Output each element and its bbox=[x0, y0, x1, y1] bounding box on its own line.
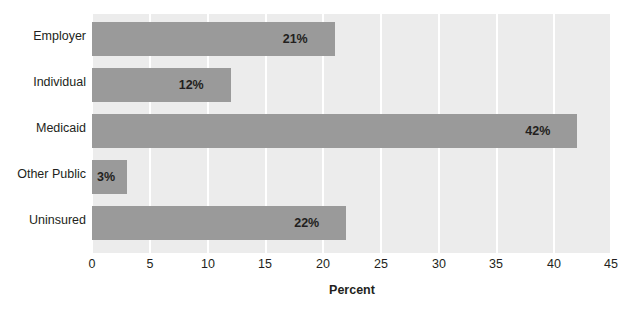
chart-title bbox=[0, 0, 629, 7]
x-axis-tick-labels: 0 5 10 15 20 25 30 35 40 45 bbox=[0, 256, 629, 276]
x-tick-20: 20 bbox=[303, 256, 343, 272]
bar-value-uninsured: 22% bbox=[294, 206, 319, 240]
horizontal-bar-chart: Employer Individual Medicaid Other Publi… bbox=[0, 0, 629, 311]
bar-value-medicaid: 42% bbox=[525, 114, 550, 148]
bar-row-medicaid: 42% bbox=[92, 114, 612, 148]
plot-area: 21% 12% 42% 3% 22% bbox=[92, 14, 612, 253]
x-axis-title: Percent bbox=[92, 283, 612, 297]
category-label-other-public: Other Public bbox=[0, 167, 86, 181]
bar-row-uninsured: 22% bbox=[92, 206, 612, 240]
bar-value-individual: 12% bbox=[179, 68, 204, 102]
x-tick-35: 35 bbox=[476, 256, 516, 272]
x-tick-0: 0 bbox=[72, 256, 112, 272]
x-tick-40: 40 bbox=[534, 256, 574, 272]
bar-value-employer: 21% bbox=[283, 22, 308, 56]
category-label-uninsured: Uninsured bbox=[0, 213, 86, 227]
category-label-medicaid: Medicaid bbox=[0, 121, 86, 135]
bar-value-other-public: 3% bbox=[97, 160, 115, 194]
category-label-employer: Employer bbox=[0, 29, 86, 43]
category-label-individual: Individual bbox=[0, 75, 86, 89]
bar-medicaid[interactable] bbox=[92, 114, 577, 148]
x-tick-10: 10 bbox=[188, 256, 228, 272]
bar-row-other-public: 3% bbox=[92, 160, 612, 194]
bar-row-individual: 12% bbox=[92, 68, 612, 102]
x-tick-5: 5 bbox=[130, 256, 170, 272]
x-tick-30: 30 bbox=[419, 256, 459, 272]
x-tick-25: 25 bbox=[361, 256, 401, 272]
x-tick-45: 45 bbox=[591, 256, 629, 272]
bar-individual[interactable] bbox=[92, 68, 231, 102]
category-axis-labels: Employer Individual Medicaid Other Publi… bbox=[0, 14, 86, 253]
x-tick-15: 15 bbox=[245, 256, 285, 272]
bar-row-employer: 21% bbox=[92, 22, 612, 56]
